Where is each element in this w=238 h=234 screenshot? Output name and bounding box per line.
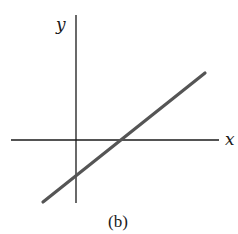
figure-caption: (b) xyxy=(108,212,128,231)
x-axis-label: x xyxy=(225,129,235,149)
y-axis-label: y xyxy=(55,14,66,34)
plotted-line xyxy=(43,73,205,202)
graph-figure: y x (b) xyxy=(0,0,238,234)
